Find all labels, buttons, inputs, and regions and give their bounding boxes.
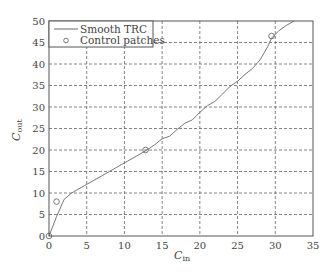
x-tick-label: 20	[193, 240, 206, 251]
control-patch-marker	[54, 199, 60, 205]
grid-lines	[49, 21, 313, 236]
x-tick-label: 10	[118, 240, 131, 251]
y-tick-label: 0	[39, 231, 45, 242]
x-tick-label: 25	[231, 240, 244, 251]
y-tick-label: 45	[32, 37, 45, 48]
x-tick-label: 15	[156, 240, 169, 251]
x-tick-label: 5	[84, 240, 90, 251]
y-tick-label: 15	[32, 166, 45, 177]
y-tick-label: 40	[32, 59, 45, 70]
x-axis-ticks: 05101520253035	[46, 240, 320, 251]
x-tick-label: 30	[269, 240, 282, 251]
legend-label-control-patches: Control patches	[80, 34, 165, 46]
x-axis-label: Cin	[174, 249, 190, 263]
y-tick-label: 10	[32, 188, 45, 199]
chart: 05101520253035 05101520253035404550 Smoo…	[0, 0, 333, 277]
y-tick-label: 30	[32, 102, 45, 113]
y-axis-ticks: 05101520253035404550	[32, 16, 45, 242]
y-tick-label: 35	[32, 80, 45, 91]
y-tick-label: 20	[32, 145, 45, 156]
y-tick-label: 50	[32, 16, 45, 27]
plot-series	[46, 21, 294, 239]
y-tick-label: 25	[32, 123, 45, 134]
x-tick-label: 0	[46, 240, 52, 251]
y-tick-label: 5	[39, 209, 45, 220]
legend-label-smooth-trc: Smooth TRC	[80, 23, 147, 35]
y-axis-label: Cout	[10, 119, 24, 141]
legend: Smooth TRC Control patches	[49, 21, 165, 47]
x-tick-label: 35	[307, 240, 320, 251]
